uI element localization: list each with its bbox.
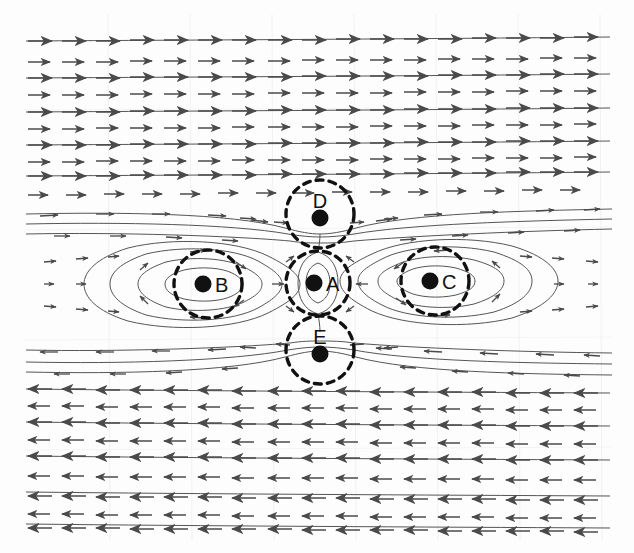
- marker-dot-c: [422, 273, 439, 290]
- critical-point-d[interactable]: D: [312, 190, 329, 227]
- point-label-b: B: [215, 274, 228, 296]
- marker-dot-a: [306, 275, 323, 292]
- point-label-c: C: [442, 271, 456, 293]
- critical-point-e[interactable]: E: [312, 326, 329, 363]
- point-label-d: D: [313, 190, 327, 212]
- vector-field-plot: A B C D E: [0, 0, 634, 553]
- point-label-a: A: [326, 273, 340, 295]
- figure-container: A B C D E: [0, 0, 634, 553]
- point-label-e: E: [313, 326, 326, 348]
- marker-dot-d: [312, 210, 329, 227]
- marker-dot-b: [195, 276, 212, 293]
- marker-dot-e: [312, 346, 329, 363]
